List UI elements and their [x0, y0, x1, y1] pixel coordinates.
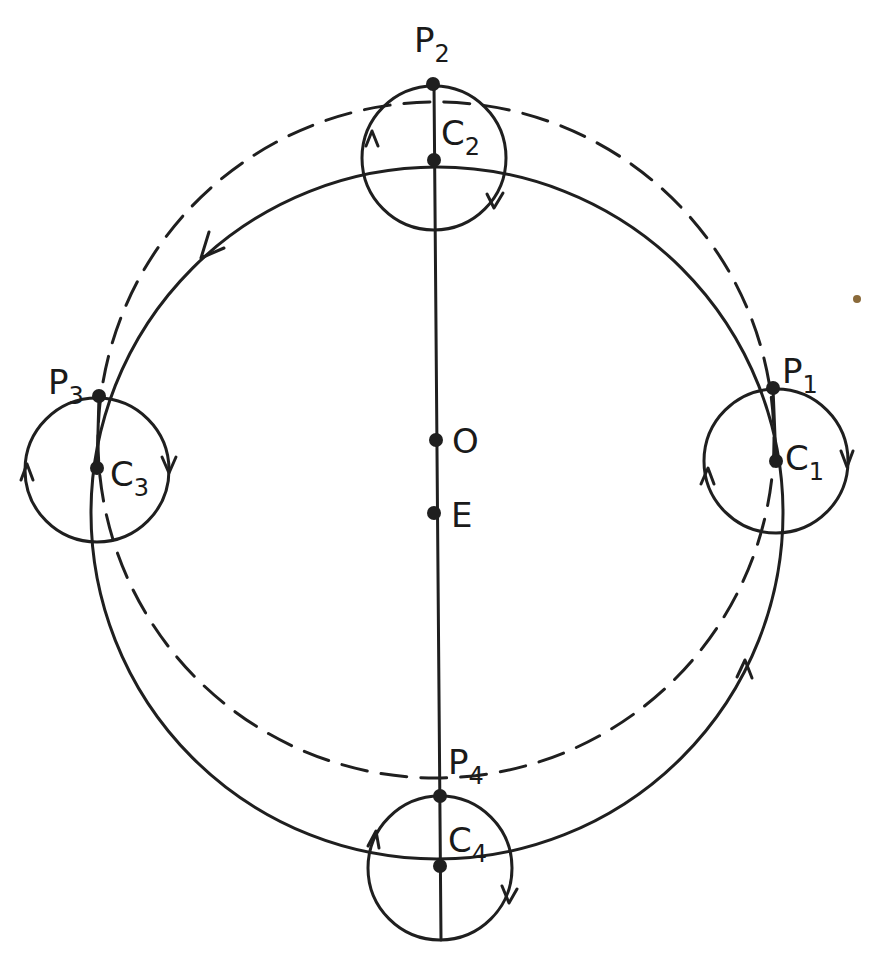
- epicycle-3-radius: [97, 396, 99, 468]
- point-p2: [426, 77, 440, 91]
- point-o: [429, 433, 443, 447]
- epicycle-diagram: O E P2 C2 P3 C3 P1 C1 P4 C4: [0, 0, 874, 958]
- point-p3: [92, 389, 106, 403]
- smudge-mark: [853, 295, 861, 303]
- label-p4: P4: [448, 742, 484, 790]
- arrow-deferent-upper-left-icon: [201, 232, 224, 258]
- arrow-epicycle-3-left-icon: [21, 464, 33, 480]
- label-c1: C1: [785, 438, 824, 486]
- label-c4: C4: [448, 820, 487, 868]
- label-o: O: [452, 421, 479, 461]
- label-p3: P3: [48, 362, 84, 410]
- point-e: [427, 506, 441, 520]
- point-c1: [769, 454, 783, 468]
- point-p4: [433, 789, 447, 803]
- point-c3: [90, 461, 104, 475]
- label-c2: C2: [441, 113, 480, 161]
- label-p2: P2: [414, 20, 450, 68]
- label-c3: C3: [110, 454, 149, 502]
- point-p1: [766, 381, 780, 395]
- point-c2: [427, 153, 441, 167]
- label-e: E: [451, 495, 472, 535]
- point-c4: [433, 859, 447, 873]
